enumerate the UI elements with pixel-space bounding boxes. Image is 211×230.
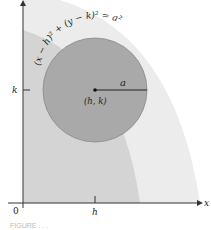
center-point [93,88,97,92]
origin-label: 0 [13,206,19,216]
x-axis-arrow-icon [197,200,203,206]
figure-caption: FIGURE . . . [10,222,48,229]
center-label: (h, k) [84,96,107,106]
k-label: k [12,85,17,95]
radius-label: a [120,77,126,88]
circle-diagram: (x − h)² + (y − k)² = a² a (h, k) k h 0 … [0,0,211,230]
x-axis-label: x [204,198,209,208]
h-label: h [92,207,98,217]
